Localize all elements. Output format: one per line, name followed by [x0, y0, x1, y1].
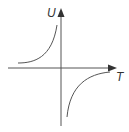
x-axis-label: T: [116, 70, 125, 84]
curve-branch-upper-left: [18, 25, 57, 63]
diagram-canvas: U T: [0, 0, 129, 132]
curve-branch-lower-right: [67, 72, 110, 117]
y-axis-arrow-icon: [58, 8, 65, 17]
y-axis-label: U: [47, 6, 56, 20]
